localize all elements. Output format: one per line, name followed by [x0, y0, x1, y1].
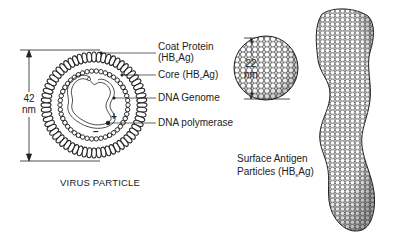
- virus-particle: [41, 52, 147, 158]
- dna-genome-strands: [67, 75, 115, 128]
- surface-antigen-filament: [316, 9, 374, 231]
- minus-strand-sign: −: [93, 126, 99, 137]
- dimension-unit: nm: [240, 69, 262, 80]
- virus-particle-caption: VIRUS PARTICLE: [60, 177, 140, 188]
- surface-antigen-particles-text: Particles (HBsAg): [237, 165, 314, 182]
- label-dna-genome: DNA Genome: [158, 92, 220, 103]
- dimension-22nm-label: 22 nm: [240, 58, 262, 80]
- dimension-value: 22: [240, 58, 262, 69]
- coat-protein-text: Coat Protein: [158, 41, 214, 52]
- label-core: Core (HBcAg): [158, 69, 218, 84]
- label-dna-polymerase: DNA polymerase: [158, 117, 233, 128]
- plus-strand-sign: +: [111, 111, 117, 122]
- label-surface-antigen: Surface Antigen Particles (HBsAg): [237, 152, 314, 182]
- hbv-diagram: 42 nm Coat Protein (HBsAg) Core (HBcAg) …: [0, 0, 398, 244]
- coat-protein-antigen: (HBsAg): [158, 52, 214, 67]
- label-coat-protein: Coat Protein (HBsAg): [158, 41, 214, 67]
- dimension-42nm-label: 42 nm: [17, 93, 41, 115]
- coat-protein-layer: [41, 52, 147, 158]
- genome-gap-marker: [87, 77, 90, 80]
- dimension-value: 42: [17, 93, 41, 104]
- surface-antigen-text: Surface Antigen: [237, 152, 314, 165]
- dimension-unit: nm: [17, 104, 41, 115]
